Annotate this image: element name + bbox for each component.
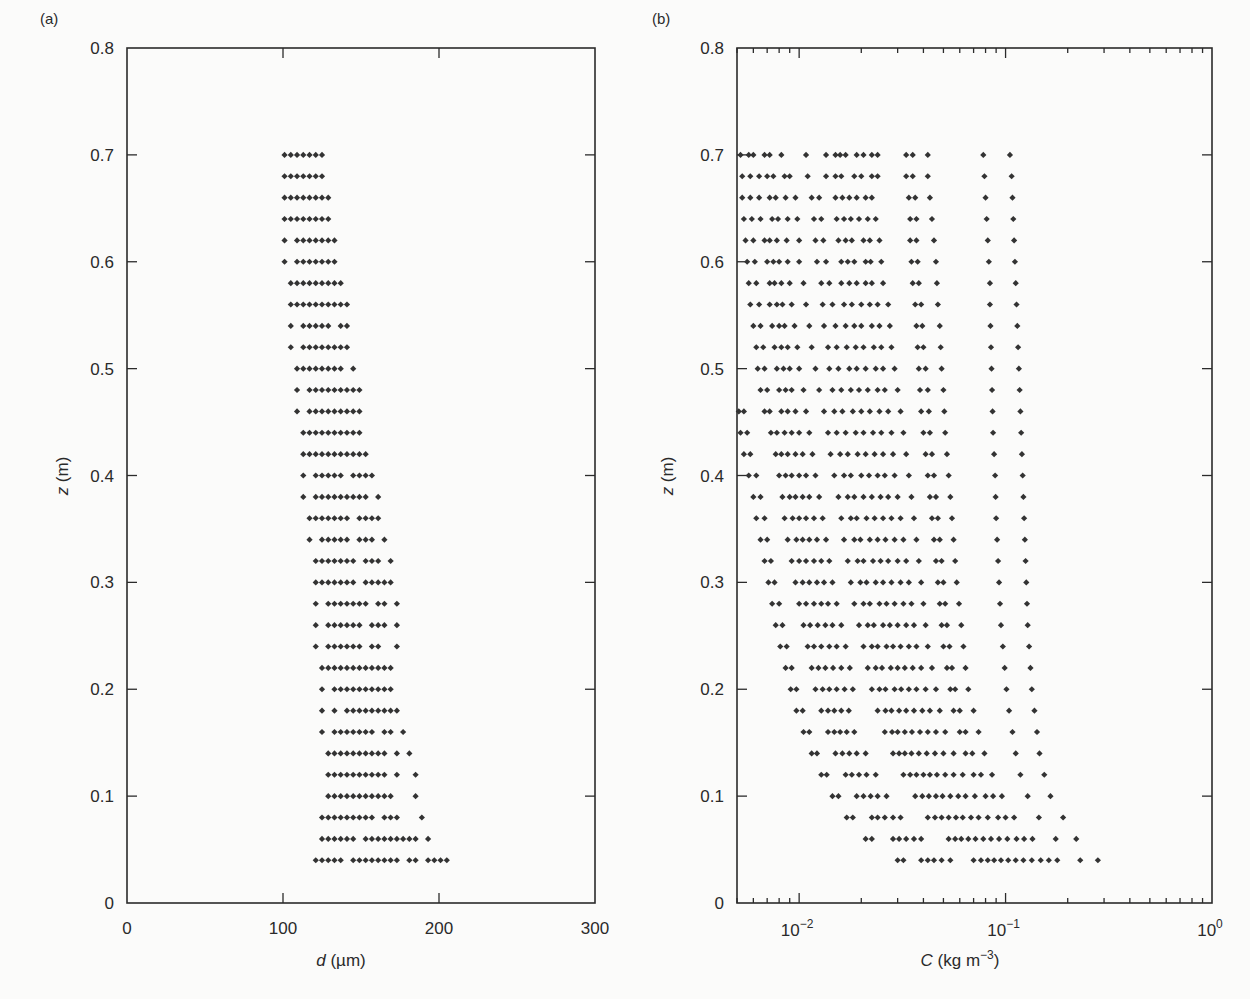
data-point (838, 708, 844, 714)
data-point (331, 836, 337, 842)
data-point (908, 601, 914, 607)
data-point (820, 237, 826, 243)
data-point (753, 280, 759, 286)
data-point (851, 494, 857, 500)
data-point (941, 408, 947, 414)
data-point (300, 451, 306, 457)
data-point (338, 665, 344, 671)
data-point (344, 558, 350, 564)
data-point (832, 173, 838, 179)
data-point (325, 237, 331, 243)
data-point (858, 408, 864, 414)
data-point (853, 430, 859, 436)
data-point (809, 665, 815, 671)
data-point (331, 622, 337, 628)
data-point (1010, 216, 1016, 222)
data-point (916, 558, 922, 564)
data-point (338, 558, 344, 564)
data-point (981, 173, 987, 179)
data-point (1007, 152, 1013, 158)
data-point (841, 301, 847, 307)
x-tick-label: 100 (269, 919, 297, 938)
data-point (820, 301, 826, 307)
data-point (331, 515, 337, 521)
data-point (848, 579, 854, 585)
data-point (912, 195, 918, 201)
data-point (741, 408, 747, 414)
data-point (774, 237, 780, 243)
data-point (331, 643, 337, 649)
data-point (800, 494, 806, 500)
data-point (781, 323, 787, 329)
data-point (838, 280, 844, 286)
data-point (918, 836, 924, 842)
data-point (344, 643, 350, 649)
data-point (845, 494, 851, 500)
data-point (350, 857, 356, 863)
data-point (803, 601, 809, 607)
data-point (865, 665, 871, 671)
data-point (1018, 430, 1024, 436)
data-point (844, 729, 850, 735)
data-point (826, 686, 832, 692)
data-point (760, 344, 766, 350)
data-point (770, 259, 776, 265)
data-point (888, 579, 894, 585)
panel-a: (a) 00.10.20.30.40.50.60.70.8 0100200300… (40, 10, 609, 970)
data-point (989, 772, 995, 778)
data-point (350, 750, 356, 756)
data-point (849, 237, 855, 243)
data-point (319, 451, 325, 457)
x-tick-label: 200 (425, 919, 453, 938)
data-point (375, 836, 381, 842)
data-point (968, 814, 974, 820)
data-point (381, 665, 387, 671)
data-point (950, 772, 956, 778)
data-point (940, 387, 946, 393)
data-point (816, 195, 822, 201)
data-point (869, 280, 875, 286)
data-point (375, 643, 381, 649)
data-point (875, 387, 881, 393)
data-point (873, 366, 879, 372)
data-point (835, 366, 841, 372)
data-point (800, 537, 806, 543)
data-point (300, 173, 306, 179)
data-point (338, 579, 344, 585)
data-point (319, 836, 325, 842)
data-point (313, 515, 319, 521)
data-point (350, 643, 356, 649)
data-point (875, 643, 881, 649)
data-point (933, 793, 939, 799)
data-point (888, 708, 894, 714)
data-point (982, 793, 988, 799)
data-point (796, 430, 802, 436)
data-point (947, 857, 953, 863)
data-point (757, 537, 763, 543)
data-point (394, 836, 400, 842)
data-point (846, 195, 852, 201)
data-point (363, 558, 369, 564)
data-point (306, 173, 312, 179)
data-point (949, 665, 955, 671)
data-point (306, 515, 312, 521)
data-point (375, 793, 381, 799)
data-point (822, 665, 828, 671)
data-point (363, 537, 369, 543)
data-point (300, 430, 306, 436)
data-point (1017, 408, 1023, 414)
data-point (814, 259, 820, 265)
data-point (869, 173, 875, 179)
data-point (1053, 836, 1059, 842)
data-point (338, 472, 344, 478)
data-point (834, 344, 840, 350)
data-point (933, 558, 939, 564)
data-point (915, 344, 921, 350)
data-point (873, 772, 879, 778)
data-point (860, 494, 866, 500)
data-point (809, 195, 815, 201)
data-point (990, 430, 996, 436)
data-point (925, 729, 931, 735)
data-point (792, 408, 798, 414)
data-point (863, 750, 869, 756)
